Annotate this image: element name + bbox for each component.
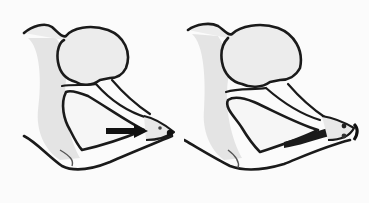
bone-joint-drawing-right [184, 0, 369, 203]
anatomical-illustration [0, 0, 369, 203]
illustration-panel-right [184, 0, 369, 203]
illustration-panel-left [0, 0, 185, 203]
bone-joint-drawing-left [0, 0, 185, 203]
